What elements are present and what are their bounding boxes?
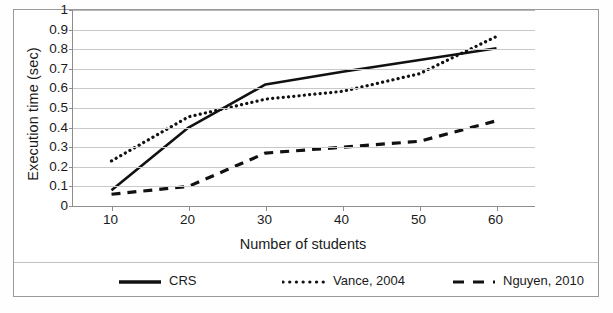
x-tick-mark: [343, 206, 344, 211]
y-tick-label: 0.7: [26, 62, 68, 76]
y-tick-label: 0: [26, 199, 68, 213]
y-tick-mark: [69, 186, 73, 187]
legend-label: CRS: [169, 273, 196, 288]
legend-swatch-dotted-icon: [282, 274, 326, 286]
legend-divider: [14, 262, 598, 263]
legend-label: Vance, 2004: [333, 273, 405, 288]
figure-root: Execution time (sec) 10.90.80.70.60.50.4…: [0, 0, 613, 313]
y-axis-tick-labels: 10.90.80.70.60.50.40.30.20.10: [26, 10, 68, 206]
x-tick-label: 30: [240, 212, 290, 227]
gridline: [73, 49, 535, 50]
x-tick-label: 40: [317, 212, 367, 227]
plot-area: [72, 10, 535, 207]
gridline: [73, 88, 535, 89]
gridline: [73, 167, 535, 168]
gridline: [73, 186, 535, 187]
legend-swatch-solid-icon: [118, 274, 162, 286]
x-tick-mark: [420, 206, 421, 211]
x-tick-label: 60: [471, 212, 521, 227]
x-axis-title: Number of students: [72, 236, 534, 252]
y-tick-label: 0.1: [26, 180, 68, 194]
y-tick-mark: [69, 30, 73, 31]
y-tick-mark: [69, 147, 73, 148]
gridline: [73, 108, 535, 109]
y-tick-label: 0.3: [26, 140, 68, 154]
x-tick-label: 10: [86, 212, 136, 227]
y-tick-label: 0.2: [26, 160, 68, 174]
x-tick-mark: [266, 206, 267, 211]
gridline: [73, 128, 535, 129]
y-tick-label: 0.4: [26, 121, 68, 135]
gridline: [73, 147, 535, 148]
y-tick-mark: [69, 69, 73, 70]
gridline: [73, 30, 535, 31]
x-tick-mark: [112, 206, 113, 211]
y-tick-mark: [69, 49, 73, 50]
legend-item[interactable]: CRS: [118, 271, 196, 289]
y-tick-label: 0.8: [26, 42, 68, 56]
y-tick-label: 0.5: [26, 101, 68, 115]
y-tick-mark: [69, 108, 73, 109]
y-tick-label: 0.6: [26, 82, 68, 96]
y-tick-mark: [69, 167, 73, 168]
gridline: [73, 69, 535, 70]
legend-label: Nguyen, 2010: [503, 273, 584, 288]
y-tick-label: 0.9: [26, 23, 68, 37]
gridline: [73, 10, 535, 11]
legend-swatch-dashed-icon: [452, 274, 496, 286]
x-tick-label: 50: [394, 212, 444, 227]
y-tick-label: 1: [26, 3, 68, 17]
x-tick-label: 20: [163, 212, 213, 227]
legend-item[interactable]: Nguyen, 2010: [452, 271, 584, 289]
series-line: [112, 121, 497, 195]
y-tick-mark: [69, 10, 73, 11]
y-tick-mark: [69, 128, 73, 129]
x-tick-mark: [497, 206, 498, 211]
y-tick-mark: [69, 88, 73, 89]
x-tick-mark: [189, 206, 190, 211]
chart-legend: CRSVance, 2004Nguyen, 2010: [14, 266, 598, 295]
legend-item[interactable]: Vance, 2004: [282, 271, 405, 289]
y-tick-mark: [69, 206, 73, 207]
x-axis-tick-labels: 102030405060: [72, 212, 534, 232]
